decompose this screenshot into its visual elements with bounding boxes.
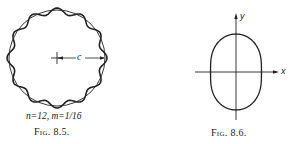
figures-canvas: [0, 0, 295, 144]
y-axis-label: y: [240, 11, 245, 21]
y-axis-arrow-icon: [234, 13, 237, 19]
fig-8-5-caption: Fig. 8.5.: [34, 126, 70, 137]
fig-8-5-drawing: [7, 8, 107, 108]
dimension-label-c: c: [77, 51, 81, 62]
fig-8-6-drawing: [195, 13, 279, 120]
x-axis-arrow-icon: [273, 70, 279, 73]
arrow-right-icon: [100, 56, 105, 59]
fig-8-5-params: n=12, m=1/16: [26, 111, 82, 121]
fig-8-6-caption: Fig. 8.6.: [211, 127, 247, 138]
arrow-left-icon: [58, 56, 63, 59]
x-axis-label: x: [281, 66, 286, 76]
